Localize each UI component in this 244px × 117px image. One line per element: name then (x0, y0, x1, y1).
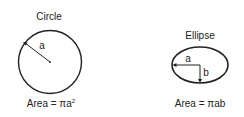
circle-formula-text: Area = πa (27, 98, 72, 109)
circle-area-formula: Area = πa2 (27, 98, 75, 109)
circle-title: Circle (36, 11, 62, 22)
ellipse-figure (172, 47, 228, 83)
circle-radius-label: a (39, 40, 45, 51)
circle-figure (19, 31, 82, 94)
semi-major-arrowhead (173, 63, 177, 67)
center-dot (49, 61, 51, 63)
radius-line (25, 43, 50, 62)
circle-formula-exponent: 2 (72, 98, 75, 104)
ellipse-area-formula: Area = πab (175, 98, 226, 109)
ellipse-title: Ellipse (185, 30, 214, 41)
ellipse-b-label: b (203, 67, 209, 78)
ellipse-a-label: a (185, 53, 191, 64)
